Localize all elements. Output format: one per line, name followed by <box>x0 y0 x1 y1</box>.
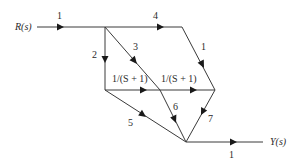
edge-E-F: 7 <box>186 90 215 142</box>
arrow-icon <box>198 60 204 69</box>
edge-R-A: 1 <box>37 10 105 31</box>
gain-label: 7 <box>208 113 213 124</box>
edge-F-Y: 1 <box>186 139 263 161</box>
gain-label: 6 <box>173 101 178 112</box>
gain-label: 4 <box>153 10 158 21</box>
gain-label: 5 <box>128 117 133 128</box>
arrow-icon <box>201 107 207 115</box>
gain-label: 2 <box>92 49 97 60</box>
arrow-icon <box>140 87 147 94</box>
gain-label: 1/(S + 1) <box>112 73 148 85</box>
gain-label: 3 <box>133 41 138 52</box>
edge-A-B: 4 <box>105 10 182 31</box>
gain-label: 1/(S + 1) <box>161 73 197 85</box>
arrow-icon <box>157 24 164 31</box>
arrow-icon <box>102 56 109 63</box>
arrow-icon <box>230 139 237 146</box>
edge-D-E: 1/(S + 1) <box>160 73 215 94</box>
gain-label: 1 <box>57 10 62 21</box>
arrow-icon <box>57 24 64 31</box>
gain-label: 1 <box>229 149 234 160</box>
gain-label: 1 <box>201 41 206 52</box>
arrow-icon <box>138 110 146 117</box>
edge-A-C: 2 <box>92 27 109 90</box>
input-label: R(s) <box>14 21 32 33</box>
edge-C-D: 1/(S + 1) <box>105 73 160 94</box>
output-label: Y(s) <box>270 136 287 148</box>
arrow-icon <box>190 87 197 94</box>
signal-flow-graph: R(s) 1 4 2 3 1 1/(S + 1) 1/(S + 1) <box>0 0 303 163</box>
